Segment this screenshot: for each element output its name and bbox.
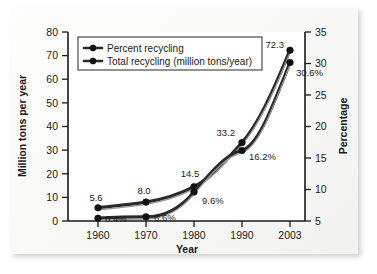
bottom-tick-2003: 2003 bbox=[278, 229, 302, 241]
right-tick-15: 15 bbox=[315, 152, 327, 164]
left-tick-60: 60 bbox=[46, 73, 58, 85]
legend-label-percent-recycling: Percent recycling bbox=[107, 43, 184, 54]
data-point-total-1970 bbox=[143, 199, 150, 206]
left-axis: 80 70 60 50 40 30 20 10 0 Million tons p… bbox=[16, 26, 68, 227]
left-tick-0: 0 bbox=[52, 215, 58, 227]
right-tick-25: 25 bbox=[315, 89, 327, 101]
label-percent-1960: 6.4% bbox=[105, 213, 127, 224]
right-tick-20: 20 bbox=[315, 120, 327, 132]
left-tick-70: 70 bbox=[46, 49, 58, 61]
left-axis-title: Million tons per year bbox=[16, 75, 28, 177]
data-point-total-1960 bbox=[95, 205, 102, 212]
data-point-percent-1990 bbox=[239, 147, 246, 154]
bottom-axis: 1960 1970 1980 1990 2003 Year bbox=[68, 221, 305, 254]
label-tons-1990: 33.2 bbox=[217, 127, 236, 138]
data-point-percent-1980 bbox=[191, 189, 198, 196]
label-percent-1980: 9.6% bbox=[202, 195, 224, 206]
recycling-line-chart: 80 70 60 50 40 30 20 10 0 Million tons p… bbox=[10, 8, 358, 254]
bottom-tick-1990: 1990 bbox=[230, 229, 254, 241]
label-tons-1960: 5.6 bbox=[89, 192, 102, 203]
label-tons-1970: 8.0 bbox=[137, 185, 150, 196]
right-tick-10: 10 bbox=[315, 183, 327, 195]
bottom-tick-1960: 1960 bbox=[86, 229, 110, 241]
legend-entry-total-recycling[interactable]: Total recycling (million tons/year) bbox=[84, 56, 252, 67]
label-percent-2003: 30.6% bbox=[296, 67, 323, 78]
data-point-percent-1970 bbox=[143, 214, 150, 221]
data-point-percent-2003 bbox=[287, 59, 294, 66]
left-tick-10: 10 bbox=[46, 191, 58, 203]
chart-legend: Percent recycling Total recycling (milli… bbox=[78, 37, 262, 70]
bottom-tick-1970: 1970 bbox=[134, 229, 158, 241]
left-tick-20: 20 bbox=[46, 168, 58, 180]
right-axis: 35 30 25 20 15 10 5 Percentage bbox=[305, 26, 349, 227]
right-tick-35: 35 bbox=[315, 26, 327, 38]
right-tick-5: 5 bbox=[315, 215, 321, 227]
left-tick-80: 80 bbox=[46, 26, 58, 38]
data-point-percent-1960 bbox=[95, 215, 102, 222]
label-percent-1990: 16.2% bbox=[249, 151, 276, 162]
legend-label-total-recycling: Total recycling (million tons/year) bbox=[107, 56, 252, 67]
bottom-tick-1980: 1980 bbox=[182, 229, 206, 241]
figure-root: 80 70 60 50 40 30 20 10 0 Million tons p… bbox=[0, 0, 377, 274]
legend-circle-marker-icon bbox=[90, 45, 96, 51]
label-tons-1980: 14.5 bbox=[181, 168, 200, 179]
label-tons-2003: 72.3 bbox=[266, 39, 285, 50]
bottom-axis-title: Year bbox=[176, 243, 198, 254]
label-percent-1970: 6.6% bbox=[154, 212, 176, 223]
left-tick-30: 30 bbox=[46, 144, 58, 156]
right-axis-title: Percentage bbox=[337, 98, 349, 155]
data-point-total-1990 bbox=[239, 139, 246, 146]
legend-circle-marker-icon bbox=[90, 58, 96, 64]
left-tick-50: 50 bbox=[46, 97, 58, 109]
data-point-total-2003 bbox=[287, 47, 294, 54]
left-tick-40: 40 bbox=[46, 120, 58, 132]
